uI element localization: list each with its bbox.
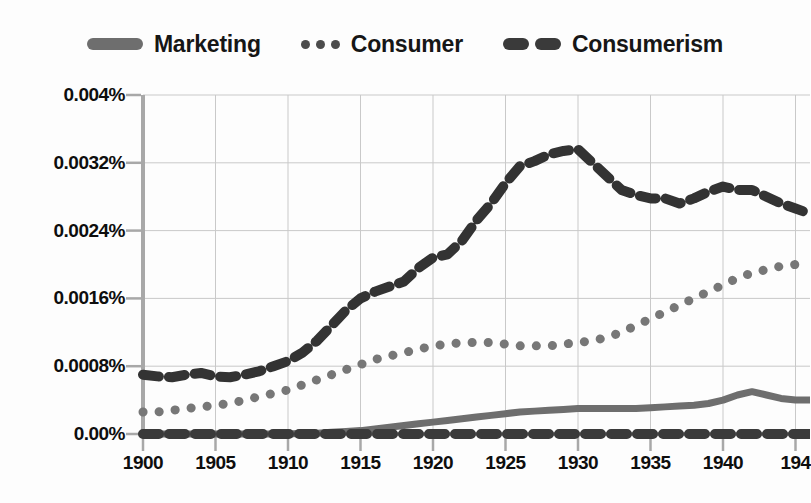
x-tick-label: 194	[780, 452, 810, 474]
y-tick-label: 0.0032%	[1, 152, 125, 174]
gridlines	[143, 95, 810, 434]
series-line-marketing	[143, 392, 810, 434]
x-tick-label: 1925	[485, 452, 525, 474]
x-tick-label: 1930	[558, 452, 598, 474]
x-tick-label: 1905	[195, 452, 235, 474]
x-tick-label: 1940	[703, 452, 743, 474]
x-tick-label: 1900	[123, 452, 163, 474]
x-tick-label: 1920	[413, 452, 453, 474]
x-tick-label: 1935	[630, 452, 670, 474]
y-tick-label: 0.00%	[1, 423, 125, 445]
axis-lines	[141, 95, 810, 436]
axis-tick-marks	[126, 95, 796, 451]
y-tick-label: 0.0008%	[1, 355, 125, 377]
y-axis-labels: 0.004%0.0032%0.0024%0.0016%0.0008%0.00%	[0, 0, 125, 503]
y-tick-label: 0.004%	[1, 84, 125, 106]
x-tick-label: 1910	[268, 452, 308, 474]
data-series	[143, 149, 810, 434]
y-tick-label: 0.0024%	[1, 220, 125, 242]
series-line-consumer	[143, 265, 810, 412]
y-tick-label: 0.0016%	[1, 287, 125, 309]
x-tick-label: 1915	[340, 452, 380, 474]
